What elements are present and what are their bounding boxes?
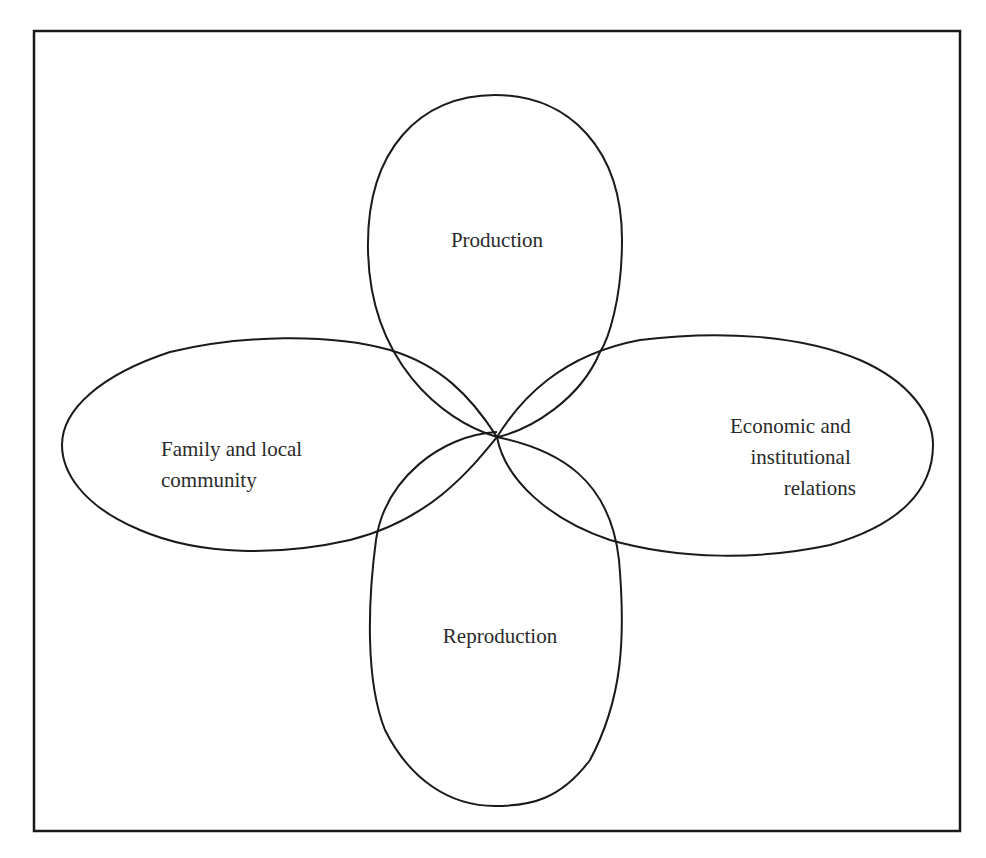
label-production: Production xyxy=(451,228,544,252)
diagram-canvas: Production Family and local community Ec… xyxy=(0,0,986,858)
label-reproduction: Reproduction xyxy=(443,624,558,648)
